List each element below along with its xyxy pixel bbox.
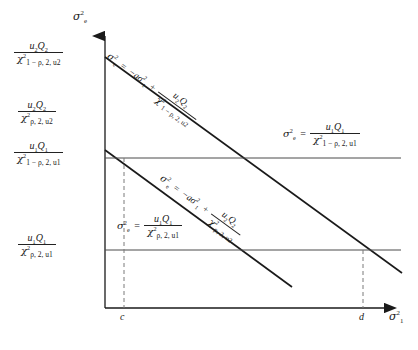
equation-slope-term: −aσ21 (126, 67, 151, 89)
x-tick-c: c (120, 312, 124, 322)
fraction-numerator: u1Q1 (310, 122, 359, 133)
x-tick-d: d (359, 312, 364, 322)
fraction-denominator: χ21 − ρ, 2, u2 (14, 52, 63, 64)
fraction-numerator: u2Q2 (18, 100, 56, 111)
y-level-label-upper-horizontal-level: u1Q1 χ21 − ρ, 2, u1 (14, 141, 63, 164)
fraction-numerator: u1Q1 (144, 214, 182, 225)
fraction-denominator: χ2ρ, 2, u2 (18, 111, 56, 123)
fraction: u1Q1 χ2ρ, 2, u1 (144, 214, 182, 237)
fraction: u1Q1 χ21 − ρ, 2, u1 (310, 122, 359, 145)
fraction-denominator: χ2ρ, 2, u1 (18, 244, 56, 256)
y-level-label-upper-diagonal-intercept: u2Q2 χ21 − ρ, 2, u2 (14, 41, 63, 64)
y-level-label-lower-horizontal-level: u1Q1 χ2ρ, 2, u1 (18, 233, 56, 256)
equals-sign: = (300, 129, 308, 139)
equation-lower-horizontal: σ2e = u1Q1 χ2ρ, 2, u1 (117, 214, 182, 237)
equation-upper-horizontal: σ2e = u1Q1 χ21 − ρ, 2, u1 (283, 122, 360, 145)
equation-lhs: σ2e (117, 221, 132, 231)
fraction-numerator: u1Q1 (14, 141, 63, 152)
fraction-denominator: χ2ρ, 2, u1 (144, 225, 182, 237)
equation-lhs: σ2e (283, 129, 298, 139)
y-axis-label: σ2e (73, 11, 87, 22)
fraction: u1Q1 χ21 − ρ, 2, u1 (14, 141, 63, 164)
fraction-denominator: χ21 − ρ, 2, u1 (14, 152, 63, 164)
fraction-numerator: u1Q1 (18, 233, 56, 244)
fraction: u2Q2 χ21 − ρ, 2, u2 (14, 41, 63, 64)
figure-canvas: σ2e σ21 c d u2Q2 χ21 − ρ, 2, u2 u2Q2 χ2ρ… (0, 0, 418, 350)
fraction: u1Q1 χ2ρ, 2, u1 (18, 233, 56, 256)
fraction-numerator: u2Q2 (14, 41, 63, 52)
y-level-label-lower-diagonal-intercept: u2Q2 χ2ρ, 2, u2 (18, 100, 56, 123)
equals-sign: = (134, 221, 142, 231)
equation-slope-term: −aσ21 (179, 189, 204, 211)
x-axis-label: σ21 (389, 311, 403, 322)
fraction-denominator: χ21 − ρ, 2, u1 (310, 133, 359, 145)
fraction: u2Q2 χ2ρ, 2, u2 (18, 100, 56, 123)
